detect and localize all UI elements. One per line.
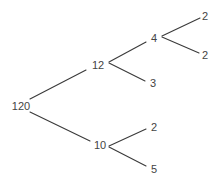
node-120: 120 [12, 101, 30, 112]
edge-4-2-top [162, 18, 200, 36]
edge-12-3 [109, 63, 145, 81]
factor-tree-diagram: 120 12 10 4 3 2 2 2 5 [0, 0, 220, 184]
edge-12-4 [109, 42, 146, 62]
node-3: 3 [150, 78, 156, 89]
edge-10-2 [109, 129, 146, 146]
node-5: 5 [151, 164, 157, 175]
edge-10-5 [109, 147, 146, 166]
node-2-middle: 2 [202, 50, 208, 61]
node-10: 10 [94, 140, 106, 151]
node-2-top: 2 [202, 11, 208, 22]
edge-120-10 [30, 112, 90, 141]
edge-4-2-bottom [162, 37, 199, 53]
node-2-lower: 2 [151, 122, 157, 133]
node-4: 4 [151, 33, 157, 44]
tree-edges [0, 0, 220, 184]
node-12: 12 [92, 60, 104, 71]
edge-120-12 [30, 70, 86, 99]
